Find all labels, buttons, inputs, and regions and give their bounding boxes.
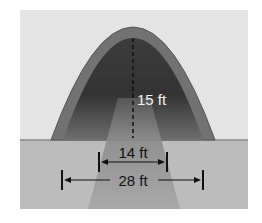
- height-label: 15 ft: [137, 91, 167, 108]
- arch-diagram: 15 ft 14 ft 28 ft: [0, 0, 262, 223]
- outer-width-label: 28 ft: [118, 172, 148, 189]
- inner-width-label: 14 ft: [118, 144, 148, 161]
